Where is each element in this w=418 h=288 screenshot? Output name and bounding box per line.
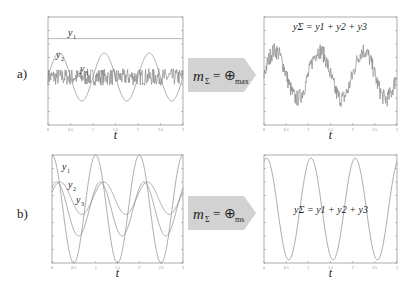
plot-b-sum: 00.511.522.53tyΣ = y1 + y2 + y3 [0, 0, 418, 288]
svg-text:2: 2 [352, 265, 354, 270]
svg-text:0.5: 0.5 [284, 265, 289, 270]
svg-text:2.5: 2.5 [372, 265, 377, 270]
svg-text:3: 3 [396, 265, 398, 270]
svg-text:yΣ = y1 + y2 + y3: yΣ = y1 + y2 + y3 [293, 204, 368, 215]
svg-text:1: 1 [307, 265, 309, 270]
svg-text:0: 0 [263, 265, 265, 270]
